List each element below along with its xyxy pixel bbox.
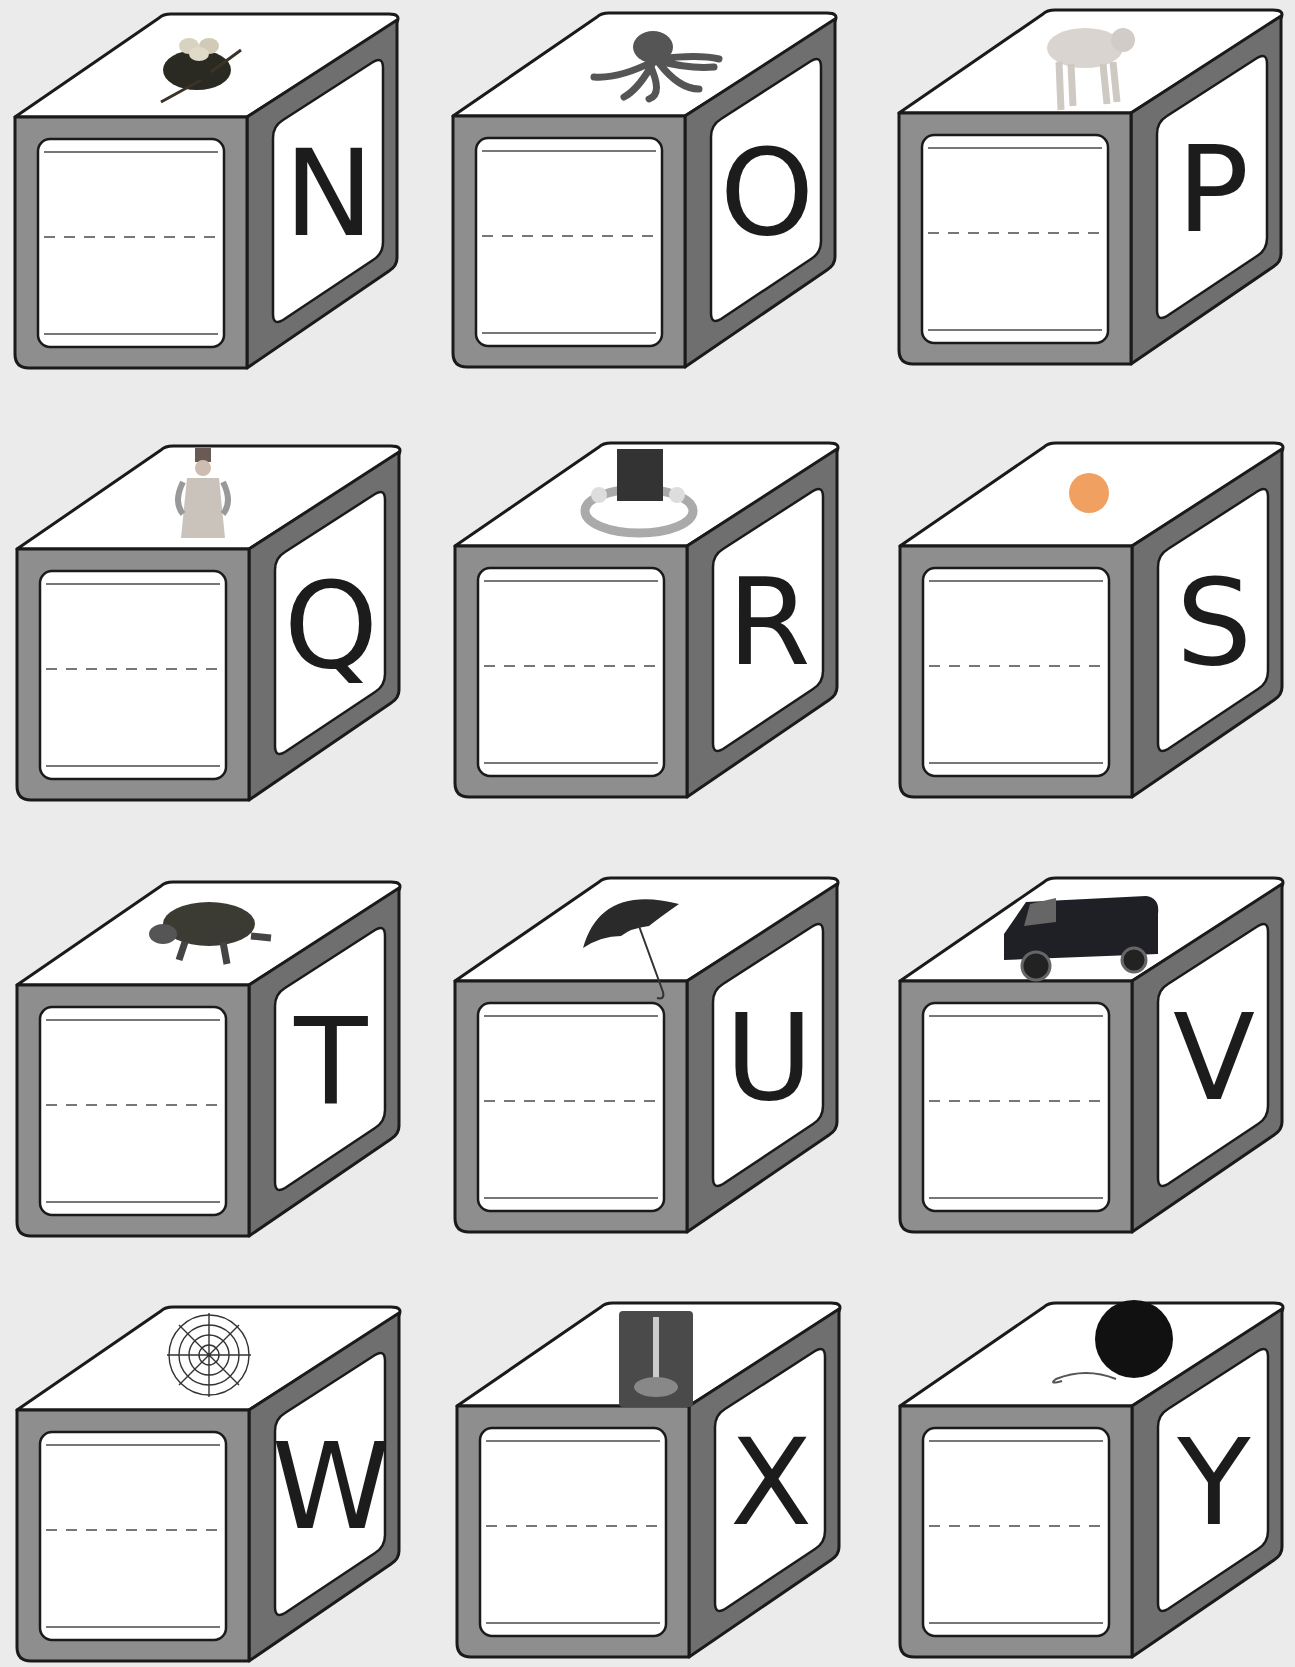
- writing-box[interactable]: [923, 568, 1109, 776]
- writing-box[interactable]: [478, 568, 664, 776]
- web-icon: [167, 1313, 251, 1397]
- sun-icon: [1069, 473, 1109, 513]
- letter-block-u: U: [451, 874, 851, 1254]
- block-letter: U: [725, 988, 813, 1127]
- writing-box[interactable]: [922, 135, 1108, 343]
- writing-box[interactable]: [478, 1003, 664, 1211]
- block-letter: O: [720, 123, 814, 262]
- block-letter: X: [730, 1413, 812, 1552]
- letter-block-x: X: [453, 1299, 853, 1667]
- writing-box[interactable]: [480, 1428, 666, 1636]
- letter-block-q: Q: [13, 442, 413, 822]
- letter-block-n: N: [11, 10, 411, 390]
- block-letter: W: [272, 1417, 391, 1556]
- letter-block-s: S: [896, 439, 1295, 819]
- writing-box[interactable]: [923, 1003, 1109, 1211]
- block-letter: Q: [284, 556, 378, 695]
- block-letter: Y: [1176, 1413, 1251, 1552]
- writing-box[interactable]: [923, 1428, 1109, 1636]
- letter-block-y: Y: [896, 1299, 1295, 1667]
- block-letter: P: [1177, 120, 1249, 259]
- block-letter: N: [284, 124, 374, 263]
- writing-box[interactable]: [40, 571, 226, 779]
- letter-block-p: P: [895, 6, 1295, 386]
- block-letter: T: [293, 992, 368, 1131]
- letter-block-t: T: [13, 878, 413, 1258]
- letter-block-w: W: [13, 1303, 413, 1667]
- block-letter: V: [1173, 988, 1255, 1127]
- writing-box[interactable]: [40, 1432, 226, 1640]
- writing-box[interactable]: [476, 138, 662, 346]
- block-letter: S: [1176, 553, 1252, 692]
- block-letter: R: [727, 553, 810, 692]
- letter-block-v: V: [896, 874, 1295, 1254]
- writing-box[interactable]: [38, 139, 224, 347]
- xray-icon: [619, 1311, 693, 1407]
- writing-box[interactable]: [40, 1007, 226, 1215]
- letter-block-o: O: [449, 9, 849, 389]
- letter-block-r: R: [451, 439, 851, 819]
